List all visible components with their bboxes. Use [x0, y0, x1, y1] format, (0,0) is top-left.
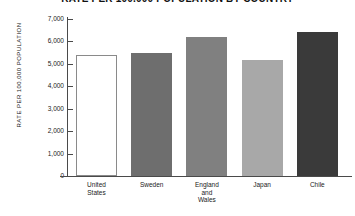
bar [76, 55, 117, 176]
chart-title: RATE PER 100,000 POPULATION BY COUNTRY [0, 0, 355, 2]
x-category-label: Chile [287, 181, 348, 189]
x-category-label-line: States [66, 189, 127, 197]
x-category-label: UnitedStates [66, 181, 127, 196]
x-category-label-line: Sweden [121, 181, 182, 189]
x-category-label-line: Wales [176, 196, 237, 204]
y-tick-label: 4,000 [0, 82, 64, 89]
y-tick-label: 6,000 [0, 37, 64, 44]
bar [186, 37, 227, 176]
x-axis-line [60, 176, 352, 177]
y-tick-label: 3,000 [0, 105, 64, 112]
y-tick-label: 5,000 [0, 60, 64, 67]
x-category-label-line: United [66, 181, 127, 189]
x-category-label: Sweden [121, 181, 182, 189]
x-category-label: Japan [232, 181, 293, 189]
y-tick-label: 2,000 [0, 127, 64, 134]
y-tick-label: 0 [0, 172, 64, 179]
x-category-label-line: England [176, 181, 237, 189]
chart-figure: RATE PER 100,000 POPULATION BY COUNTRY R… [0, 0, 355, 216]
bar [297, 32, 338, 176]
plot-area [68, 19, 350, 176]
bar [131, 53, 172, 176]
x-category-label-line: and [176, 189, 237, 197]
y-axis-label: RATE PER 100,000 POPULATION [16, 15, 22, 135]
x-category-label: EnglandandWales [176, 181, 237, 204]
y-tick-label: 7,000 [0, 15, 64, 22]
bar [242, 60, 283, 176]
y-tick-label: 1,000 [0, 150, 64, 157]
x-category-label-line: Chile [287, 181, 348, 189]
x-category-label-line: Japan [232, 181, 293, 189]
